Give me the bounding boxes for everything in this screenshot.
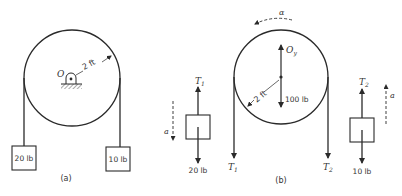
pulley-a bbox=[24, 30, 120, 126]
radius-label-b: 2 ft bbox=[252, 89, 268, 105]
fbd-right-weight-label: 10 lb bbox=[353, 167, 372, 176]
weight-label-b: 100 lb bbox=[285, 95, 309, 104]
alpha-arc-arrow bbox=[255, 18, 292, 24]
fbd-left-accel-label: a bbox=[164, 127, 169, 136]
mass-10lb-label: 10 lb bbox=[109, 155, 128, 164]
caption-b: (b) bbox=[275, 176, 286, 185]
fbd-left-weight-label: 20 lb bbox=[189, 166, 208, 175]
fbd-right-accel-label: a bbox=[390, 91, 395, 100]
reaction-label: Oy bbox=[286, 45, 297, 57]
radius-dimension-b bbox=[264, 80, 279, 92]
fbd-left: T1 20 lb a bbox=[164, 76, 210, 175]
fbd-right: T2 10 lb a bbox=[350, 77, 395, 176]
pulley-diagram: O 2 ft 20 lb 10 lb (a) T1 20 lb a α T1 T… bbox=[0, 0, 402, 196]
right-tension-label-b: T2 bbox=[323, 162, 333, 173]
panel-a: O 2 ft 20 lb 10 lb (a) bbox=[12, 30, 130, 183]
alpha-label: α bbox=[279, 8, 285, 17]
mass-20lb-label: 20 lb bbox=[15, 154, 34, 163]
radius-label-a: 2 ft bbox=[81, 58, 97, 72]
radius-arrow-a bbox=[102, 56, 111, 62]
panel-b: α T1 T2 Oy 100 lb 2 ft (b) bbox=[228, 8, 333, 185]
fbd-left-tension-label: T1 bbox=[195, 76, 205, 87]
left-tension-label-b: T1 bbox=[228, 162, 238, 173]
fbd-right-tension-label: T2 bbox=[359, 77, 369, 88]
radius-dimension-a bbox=[76, 71, 83, 75]
caption-a: (a) bbox=[60, 174, 71, 183]
radius-arrow-b bbox=[248, 100, 254, 106]
pivot-label: O bbox=[57, 69, 65, 79]
